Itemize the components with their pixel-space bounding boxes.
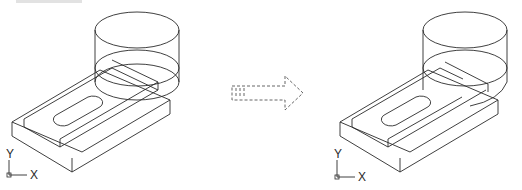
y-axis-label: Y [334,147,342,161]
combined-solid [340,68,498,172]
transform-arrow [232,76,303,110]
merged-cylinder [423,12,507,106]
ucs-icon-before: Y X [6,147,38,182]
before-model: Y X [6,12,179,182]
diagram-canvas: Y X [0,0,522,190]
base-plate [12,60,170,172]
ucs-icon-after: Y X [334,147,366,184]
x-axis-label: X [358,170,366,184]
after-model: Y X [334,12,507,184]
x-axis-label: X [30,168,38,182]
cylinder [95,12,179,100]
y-axis-label: Y [6,147,14,161]
